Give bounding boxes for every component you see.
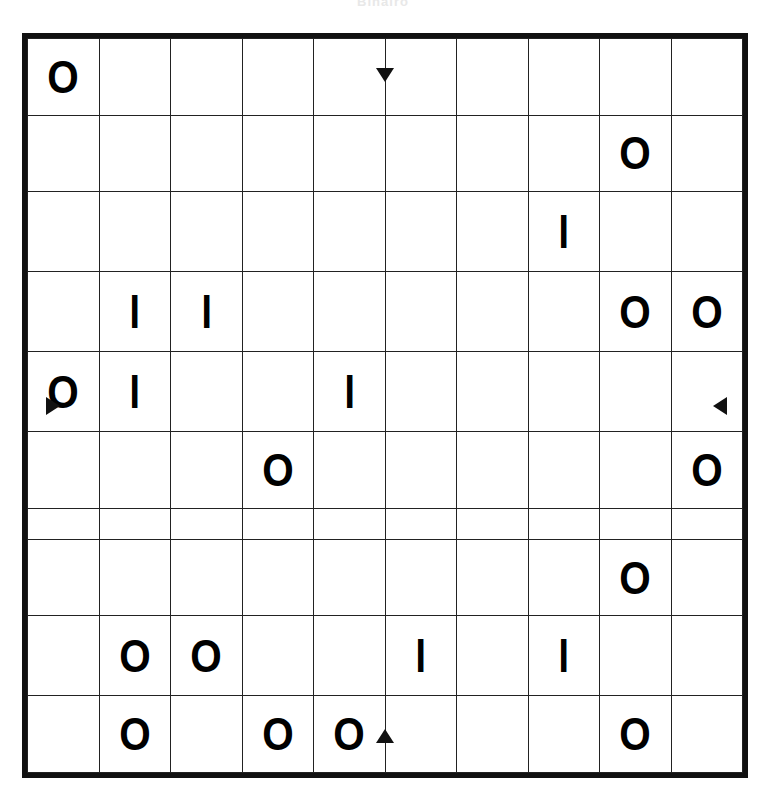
grid-cell[interactable] (171, 508, 243, 539)
grid-cell[interactable] (385, 272, 457, 352)
grid-cell[interactable] (314, 539, 386, 616)
grid-cell[interactable]: O (600, 539, 672, 616)
grid-cell[interactable] (99, 539, 171, 616)
grid-cell[interactable] (528, 696, 600, 773)
grid-cell[interactable]: O (314, 696, 386, 773)
grid-cell[interactable] (28, 432, 100, 509)
grid-cell[interactable] (28, 696, 100, 773)
grid-cell[interactable]: O (600, 115, 672, 192)
grid-cell[interactable] (671, 539, 743, 616)
grid-cell[interactable] (314, 192, 386, 272)
grid-cell[interactable] (528, 352, 600, 432)
grid-cell[interactable] (600, 192, 672, 272)
grid-cell[interactable] (457, 192, 529, 272)
grid-cell[interactable] (28, 539, 100, 616)
grid-cell[interactable] (242, 352, 314, 432)
grid-cell[interactable]: O (171, 616, 243, 696)
grid-cell[interactable] (671, 192, 743, 272)
grid-cell[interactable] (171, 432, 243, 509)
grid-cell[interactable] (28, 508, 100, 539)
grid-cell[interactable] (457, 115, 529, 192)
grid-cell[interactable] (457, 432, 529, 509)
grid-cell[interactable]: O (671, 272, 743, 352)
grid-cell[interactable]: O (671, 432, 743, 509)
grid-cell[interactable]: I (528, 616, 600, 696)
grid-cell[interactable] (242, 539, 314, 616)
grid-cell[interactable] (314, 616, 386, 696)
grid-cell[interactable] (671, 508, 743, 539)
grid-cell[interactable] (528, 272, 600, 352)
grid-cell[interactable] (171, 115, 243, 192)
grid-cell[interactable] (385, 39, 457, 116)
grid-cell[interactable]: O (242, 696, 314, 773)
grid-cell[interactable] (385, 192, 457, 272)
grid-cell[interactable] (671, 115, 743, 192)
grid-cell[interactable] (671, 352, 743, 432)
grid-cell[interactable]: O (28, 39, 100, 116)
grid-cell[interactable] (314, 39, 386, 116)
grid-cell[interactable] (385, 432, 457, 509)
grid-cell[interactable] (99, 432, 171, 509)
grid-cell[interactable] (242, 616, 314, 696)
grid-cell[interactable] (385, 508, 457, 539)
grid-cell[interactable] (314, 272, 386, 352)
grid-cell[interactable]: I (314, 352, 386, 432)
puzzle-grid[interactable]: OOIIIOOOIIOOOOOIIOOOO (22, 33, 748, 778)
grid-cell[interactable]: O (600, 696, 672, 773)
grid-cell[interactable] (528, 539, 600, 616)
grid-cell[interactable]: O (28, 352, 100, 432)
grid-cell[interactable]: I (99, 272, 171, 352)
grid-cell[interactable] (99, 39, 171, 116)
grid-cell[interactable] (457, 508, 529, 539)
grid-cell[interactable] (314, 115, 386, 192)
grid-cell[interactable] (242, 115, 314, 192)
grid-cell[interactable] (528, 115, 600, 192)
grid-cell[interactable] (242, 272, 314, 352)
grid-cell[interactable] (385, 696, 457, 773)
grid-cell[interactable] (528, 508, 600, 539)
grid-cell[interactable] (171, 539, 243, 616)
grid-cell[interactable] (385, 539, 457, 616)
grid-cell[interactable] (457, 39, 529, 116)
grid-cell[interactable] (171, 192, 243, 272)
grid-cell[interactable] (457, 272, 529, 352)
grid-cell[interactable] (385, 115, 457, 192)
grid-cell[interactable]: I (99, 352, 171, 432)
grid-cell[interactable] (385, 352, 457, 432)
grid-cell[interactable] (28, 616, 100, 696)
grid-cell[interactable]: I (171, 272, 243, 352)
grid-cell[interactable] (314, 508, 386, 539)
grid-cell[interactable] (99, 115, 171, 192)
grid-cell[interactable] (600, 352, 672, 432)
grid-cell[interactable] (171, 352, 243, 432)
grid-cell[interactable] (600, 616, 672, 696)
grid-cell[interactable] (600, 432, 672, 509)
grid-cell[interactable] (457, 352, 529, 432)
grid-cell[interactable] (600, 39, 672, 116)
grid-cell[interactable] (457, 616, 529, 696)
grid-cell[interactable] (171, 696, 243, 773)
grid-cell[interactable] (99, 192, 171, 272)
grid-cell[interactable] (242, 192, 314, 272)
grid-cell[interactable]: O (242, 432, 314, 509)
grid-cell[interactable] (171, 39, 243, 116)
grid-cell[interactable] (314, 432, 386, 509)
grid-cell[interactable]: I (385, 616, 457, 696)
grid-cell[interactable] (242, 508, 314, 539)
grid-cell[interactable]: O (600, 272, 672, 352)
grid-cell[interactable] (457, 539, 529, 616)
grid-cell[interactable] (528, 432, 600, 509)
grid-cell[interactable]: O (99, 696, 171, 773)
grid-cell[interactable] (600, 508, 672, 539)
grid-cell[interactable] (671, 39, 743, 116)
grid-cell[interactable] (528, 39, 600, 116)
grid-cell[interactable]: O (99, 616, 171, 696)
grid-cell[interactable] (671, 616, 743, 696)
grid-cell[interactable] (99, 508, 171, 539)
grid-cell[interactable] (28, 115, 100, 192)
grid-cell[interactable] (457, 696, 529, 773)
grid-cell[interactable] (28, 192, 100, 272)
grid-cell[interactable] (671, 696, 743, 773)
grid-cell[interactable] (28, 272, 100, 352)
grid-cell[interactable]: I (528, 192, 600, 272)
